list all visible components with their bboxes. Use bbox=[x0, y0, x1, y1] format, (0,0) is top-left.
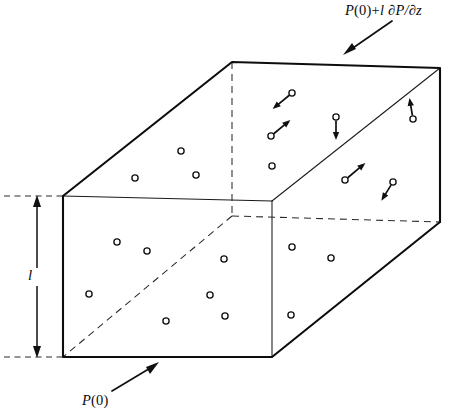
box-faces bbox=[63, 62, 440, 357]
bottom-pressure-label: P(0) bbox=[82, 393, 109, 408]
figure-root: P(0)+l ∂P/∂z P(0) l bbox=[0, 0, 457, 420]
top-pressure-plus: + bbox=[372, 2, 380, 18]
top-callout-arrowhead bbox=[343, 43, 356, 55]
top-pressure-derivative: ∂P/∂z bbox=[388, 2, 422, 18]
face-front bbox=[63, 196, 272, 357]
top-pressure-argument: (0) bbox=[354, 2, 372, 18]
dimension-arrowhead-bottom bbox=[33, 346, 41, 358]
bottom-pressure-argument: (0) bbox=[91, 392, 109, 408]
top-pressure-length: l bbox=[380, 2, 384, 18]
height-dimension-label: l bbox=[28, 268, 32, 283]
dimension-arrowhead-top bbox=[33, 195, 41, 207]
top-pressure-symbol: P bbox=[345, 2, 354, 18]
bottom-callout-arrowhead bbox=[146, 362, 159, 374]
height-dimension bbox=[4, 195, 66, 358]
top-callout-arrow-shaft bbox=[350, 21, 392, 50]
bottom-pressure-symbol: P bbox=[82, 392, 91, 408]
diagram-canvas bbox=[0, 0, 457, 420]
top-pressure-label: P(0)+l ∂P/∂z bbox=[345, 3, 422, 18]
bottom-callout-arrow-shaft bbox=[112, 367, 152, 391]
